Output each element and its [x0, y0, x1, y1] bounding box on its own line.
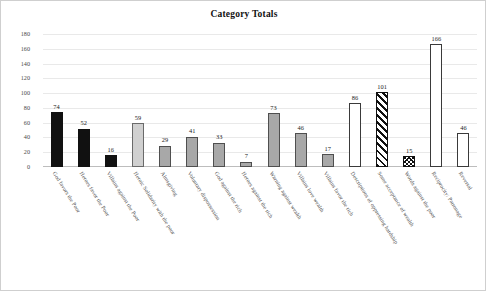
x-axis-tick-label: Reversal	[458, 171, 474, 191]
bar[interactable]	[430, 44, 442, 167]
bar-value-label: 29	[162, 137, 168, 143]
bar[interactable]	[51, 112, 63, 167]
bar-value-label: 46	[460, 125, 466, 131]
bar[interactable]	[132, 123, 144, 167]
bar-value-label: 59	[135, 115, 141, 121]
category-label-slot: God favors the Poor	[43, 169, 70, 289]
bar-group: 101	[369, 34, 396, 167]
y-axis-tick-label: 20	[0, 149, 30, 155]
bar-group: 73	[260, 34, 287, 167]
category-label-slot: Almsgiving	[152, 169, 179, 289]
x-axis-category-labels: God favors the PoorHeroes favor the Poor…	[43, 169, 477, 289]
category-label-slot: Heroes against the rich	[233, 169, 260, 289]
plot-area: 0204060801001201401601807452165929413377…	[43, 34, 477, 167]
bar-group: 7	[233, 34, 260, 167]
y-axis-tick-label: 80	[0, 105, 30, 111]
bar-group: 33	[206, 34, 233, 167]
chart-title: Category Totals	[1, 9, 486, 19]
bar-group: 46	[450, 34, 477, 167]
bar-value-label: 166	[432, 36, 442, 42]
bar-value-label: 52	[80, 120, 86, 126]
bar[interactable]	[349, 103, 361, 167]
category-label-slot: Reversal	[450, 169, 477, 289]
bar-group: 166	[423, 34, 450, 167]
bar-group: 74	[43, 34, 70, 167]
bar[interactable]	[78, 129, 90, 167]
bar-group: 59	[124, 34, 151, 167]
bar[interactable]	[186, 137, 198, 167]
category-label-slot: Voluntary dispossession	[179, 169, 206, 289]
bar-group: 41	[179, 34, 206, 167]
y-axis-tick-label: 160	[0, 46, 30, 52]
bar-value-label: 41	[189, 128, 195, 134]
x-axis-tick-label: Almsgiving	[159, 171, 178, 197]
y-axis-tick-label: 140	[0, 61, 30, 67]
bar-group: 86	[341, 34, 368, 167]
bar[interactable]	[213, 143, 225, 167]
y-axis-tick-label: 0	[0, 164, 30, 170]
bar[interactable]	[403, 156, 415, 167]
category-label-slot: Heroic Solidarity with the poor	[124, 169, 151, 289]
bar-group: 16	[97, 34, 124, 167]
bar-group: 52	[70, 34, 97, 167]
bar[interactable]	[457, 133, 469, 167]
bar-value-label: 15	[406, 148, 412, 154]
category-label-slot: Some acceptance of wealth	[369, 169, 396, 289]
bar-value-label: 33	[216, 134, 222, 140]
bar[interactable]	[268, 113, 280, 167]
category-label-slot: God against the rich	[206, 169, 233, 289]
bar-value-label: 86	[352, 95, 358, 101]
bar-value-label: 73	[270, 105, 276, 111]
category-label-slot: Heroes favor the Poor	[70, 169, 97, 289]
bar-value-label: 17	[325, 146, 331, 152]
category-label-slot: Descriptions of oppressing hardship	[341, 169, 368, 289]
y-axis-tick-label: 40	[0, 134, 30, 140]
category-label-slot: Villains against the Poor	[97, 169, 124, 289]
bar[interactable]	[240, 162, 252, 167]
bar-group: 29	[152, 34, 179, 167]
bar-value-label: 7	[245, 153, 248, 159]
bar-group: 46	[287, 34, 314, 167]
bar[interactable]	[159, 146, 171, 167]
category-label-slot: Warning against wealth	[260, 169, 287, 289]
category-label-slot: Reciprocity/ Patronage	[423, 169, 450, 289]
bar-value-label: 101	[377, 84, 387, 90]
category-label-slot: Words against the poor	[396, 169, 423, 289]
bar[interactable]	[376, 92, 388, 167]
category-label-slot: Villains love wealth	[287, 169, 314, 289]
y-axis-tick-label: 180	[0, 31, 30, 37]
y-axis-tick-label: 100	[0, 90, 30, 96]
y-axis-tick-label: 60	[0, 120, 30, 126]
bar-value-label: 16	[108, 147, 114, 153]
bar-group: 17	[314, 34, 341, 167]
chart-container: Category Totals 020406080100120140160180…	[0, 0, 486, 291]
bar[interactable]	[295, 133, 307, 167]
bar-value-label: 74	[53, 104, 59, 110]
y-axis-tick-label: 120	[0, 75, 30, 81]
bar[interactable]	[105, 155, 117, 167]
category-label-slot: Villains favor the rich	[314, 169, 341, 289]
bar-value-label: 46	[297, 125, 303, 131]
bar-group: 15	[396, 34, 423, 167]
bar[interactable]	[322, 154, 334, 167]
